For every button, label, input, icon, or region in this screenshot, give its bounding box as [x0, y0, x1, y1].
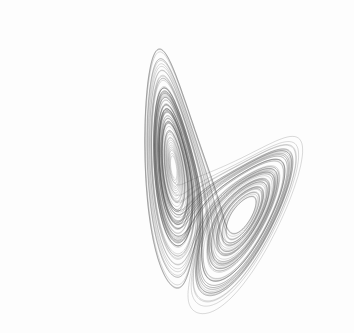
trajectory-segment — [159, 109, 289, 288]
trajectory-segment — [169, 68, 269, 254]
attractor-plot — [0, 0, 354, 333]
lorenz-attractor-figure: Lorenz attractor — [0, 0, 354, 333]
